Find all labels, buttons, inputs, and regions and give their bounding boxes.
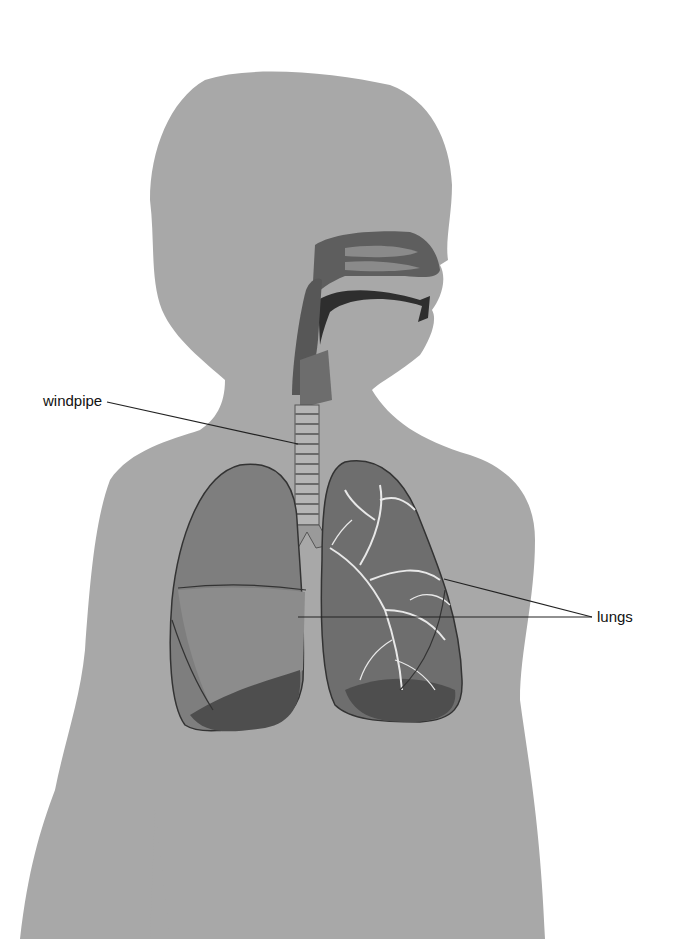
- lungs-label: lungs: [597, 609, 633, 624]
- windpipe-label: windpipe: [43, 393, 102, 408]
- respiratory-diagram: [0, 0, 685, 939]
- larynx: [300, 350, 332, 408]
